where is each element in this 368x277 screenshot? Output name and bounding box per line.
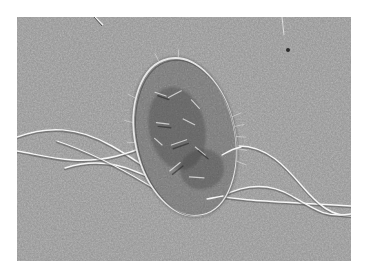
micrograph-image bbox=[17, 17, 351, 261]
micrograph-svg bbox=[17, 17, 351, 261]
artifact-dot bbox=[286, 48, 290, 52]
